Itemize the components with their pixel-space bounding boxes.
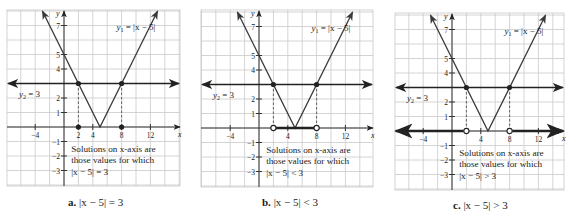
y-tick-label: −3 (440, 171, 448, 180)
y-tick-label: −2 (247, 153, 255, 162)
x-tick-label: 12 (147, 131, 155, 140)
y-tick-label: 2 (444, 98, 448, 107)
y-tick-label: 7 (444, 26, 448, 35)
y-axis-label: y (55, 9, 60, 18)
x-axis-label: x (561, 134, 566, 143)
y-tick-label: −1 (440, 142, 448, 151)
caption-letter: b. (262, 196, 271, 208)
x-tick-label: 2 (77, 131, 81, 140)
y-tick-label: −2 (52, 152, 60, 161)
y-tick-label: 2 (56, 94, 60, 103)
intersection-point (119, 81, 124, 86)
y-tick-label: −2 (440, 156, 448, 165)
caption-text: |x − 5| < 3 (274, 196, 318, 208)
y-tick-label: −1 (247, 139, 255, 148)
x-tick-label: 12 (535, 135, 543, 144)
y-tick-label: 5 (444, 55, 448, 64)
x-axis-label: x (370, 131, 375, 140)
label-expr: = 3 (220, 90, 235, 100)
label-expr: = |x − 5| (124, 22, 156, 32)
solution-note-line: |x − 5| > 3 (459, 171, 496, 181)
caption-letter: c. (453, 199, 461, 211)
solution-note-line: Solutions on x-axis are (266, 145, 350, 155)
x-tick-label: −4 (226, 132, 234, 141)
caption-text: |x − 5| > 3 (463, 199, 507, 211)
label-y2: y2 = 3 (406, 93, 429, 104)
solution-note-line: those values for which (459, 159, 542, 169)
solution-point-filled (76, 124, 81, 129)
y-tick-label: 1 (251, 110, 255, 119)
y-tick-label: 5 (56, 51, 60, 60)
figure-stage: xy−42481275421−1−2−3y1 = |x − 5|y2 = 3So… (0, 0, 566, 214)
label-y2: y2 = 3 (212, 90, 235, 101)
solution-note-line: those values for which (71, 155, 154, 165)
graph-panel-a: xy−42481275421−1−2−3y1 = |x − 5|y2 = 3So… (7, 9, 182, 186)
solution-point-open (271, 125, 276, 130)
intersection-point (314, 82, 319, 87)
label-expr: = |x − 5| (319, 23, 351, 33)
solution-note-line: |x − 5| < 3 (266, 168, 303, 178)
x-axis-label: x (177, 130, 182, 139)
solution-point-open (464, 128, 469, 133)
y-tick-label: 2 (251, 95, 255, 104)
solution-note-line: Solutions on x-axis are (459, 148, 543, 158)
solution-point-open (507, 128, 512, 133)
caption-a: a. |x − 5| = 3 (68, 196, 123, 208)
x-tick-label: 8 (508, 135, 512, 144)
caption-text: |x − 5| = 3 (79, 196, 123, 208)
label-expr: = 3 (26, 89, 41, 99)
y-axis-label: y (443, 12, 448, 21)
solution-point-open (314, 125, 319, 130)
y-tick-label: −1 (52, 138, 60, 147)
caption-c: c. |x − 5| > 3 (453, 199, 508, 211)
x-tick-label: 12 (342, 132, 350, 141)
label-expr: = 3 (414, 93, 429, 103)
y-tick-label: 1 (444, 113, 448, 122)
x-tick-label: −4 (419, 135, 427, 144)
solution-note-line: |x − 5| = 3 (71, 167, 108, 177)
y-tick-label: 4 (444, 69, 448, 78)
y-tick-label: 4 (56, 65, 60, 74)
y-tick-label: 4 (251, 66, 255, 75)
solution-note-line: those values for which (266, 156, 349, 166)
y-tick-label: 5 (251, 52, 255, 61)
x-tick-label: 4 (91, 131, 95, 140)
x-tick-label: −4 (31, 131, 39, 140)
label-y2: y2 = 3 (18, 89, 41, 100)
solution-note-line: Solutions on x-axis are (71, 144, 155, 154)
x-tick-label: 4 (286, 132, 290, 141)
y-tick-label: 7 (251, 23, 255, 32)
y-tick-label: 1 (56, 109, 60, 118)
caption-letter: a. (68, 196, 76, 208)
x-tick-label: 4 (479, 135, 483, 144)
solution-point-filled (119, 124, 124, 129)
caption-b: b. |x − 5| < 3 (262, 196, 318, 208)
x-tick-label: 8 (120, 131, 124, 140)
graph-panel-c: xy−4481275421−1−2−3y1 = |x − 5|y2 = 3Sol… (395, 12, 566, 190)
x-tick-label: 8 (315, 132, 319, 141)
y-tick-label: −3 (52, 167, 60, 176)
graphs-svg: xy−42481275421−1−2−3y1 = |x − 5|y2 = 3So… (0, 0, 566, 214)
intersection-point (271, 82, 276, 87)
intersection-point (464, 85, 469, 90)
y-tick-label: −3 (247, 168, 255, 177)
intersection-point (76, 81, 81, 86)
graph-panel-b: xy−4481275421−1−2−3y1 = |x − 5|y2 = 3Sol… (201, 9, 375, 187)
y-axis-label: y (250, 9, 255, 18)
intersection-point (507, 85, 512, 90)
y-tick-label: 7 (56, 22, 60, 31)
label-expr: = |x − 5| (512, 26, 544, 36)
